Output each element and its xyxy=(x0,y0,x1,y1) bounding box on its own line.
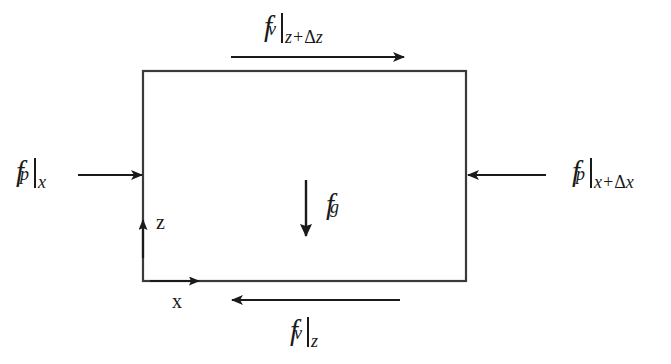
evaluated-at-bar xyxy=(307,317,309,347)
force-subscript: g xyxy=(330,198,339,216)
evaluated-at-bar xyxy=(34,158,36,188)
evaluated-at-bar xyxy=(281,13,283,43)
viscous-bottom-label: fvz xyxy=(290,316,317,346)
eval-post: x xyxy=(626,172,634,192)
gravity-label: fg xyxy=(326,190,342,219)
delta-symbol: Δ xyxy=(614,172,626,192)
pressure-right-label: fpx+Δx xyxy=(572,157,633,187)
force-subscript: p xyxy=(20,165,29,183)
eval-post: z xyxy=(316,27,323,47)
z-axis-label: z xyxy=(156,212,165,232)
force-subscript: p xyxy=(576,165,585,183)
delta-symbol: Δ xyxy=(304,27,316,47)
x-axis-label: x xyxy=(172,291,182,311)
force-subscript: v xyxy=(294,324,302,342)
eval-post: x xyxy=(38,172,46,192)
pressure-left-label: fpx xyxy=(16,157,45,187)
evaluated-at-bar xyxy=(590,158,592,188)
force-subscript: v xyxy=(268,20,276,38)
control-volume-box xyxy=(143,71,466,281)
eval-post: z xyxy=(311,331,318,351)
free-body-diagram: fvz+Δz fvz fpx fpx+Δx fg z x xyxy=(0,0,671,364)
eval-pre: z+ xyxy=(285,27,304,47)
diagram-canvas xyxy=(0,0,671,364)
eval-pre: x+ xyxy=(594,172,614,192)
viscous-top-label: fvz+Δz xyxy=(264,12,322,42)
